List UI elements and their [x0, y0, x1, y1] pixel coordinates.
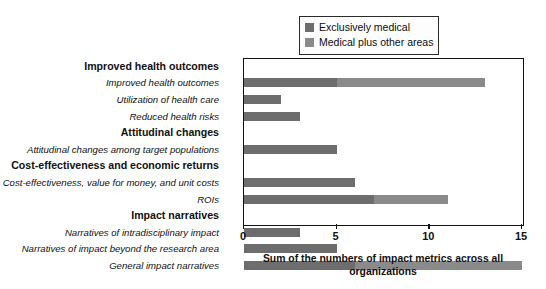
bar-track: [244, 174, 522, 191]
x-axis-tick: [243, 224, 244, 229]
row-label: Cost-effectiveness, value for money, and…: [0, 177, 219, 188]
category-header-label: Attitudinal changes: [0, 127, 219, 138]
bar-segment: [244, 195, 374, 204]
bar-track: [244, 91, 522, 108]
category-header-label: Cost-effectiveness and economic returns: [0, 160, 219, 171]
bar-segment: [244, 228, 300, 237]
chart-row: Narratives of intradisciplinary impact: [0, 224, 546, 241]
bar-segment: [337, 78, 485, 87]
bar: [244, 78, 485, 87]
bar-track: [244, 108, 522, 125]
row-label: General impact narratives: [0, 260, 219, 271]
row-label: ROIs: [0, 194, 219, 205]
bar-segment: [244, 145, 337, 154]
x-axis-tick: [336, 224, 337, 229]
row-label: Utilization of health care: [0, 94, 219, 105]
legend-swatch-icon: [305, 23, 314, 32]
row-label: Improved health outcomes: [0, 77, 219, 88]
chart-row: Improved health outcomes: [0, 75, 546, 92]
category-header-row: Cost-effectiveness and economic returns: [0, 158, 546, 175]
x-axis-tick: [428, 224, 429, 229]
bar-track: [244, 224, 522, 241]
legend-label: Exclusively medical: [319, 22, 410, 33]
bar-segment: [244, 95, 281, 104]
bar-track: [244, 207, 522, 224]
chart-row: Utilization of health care: [0, 91, 546, 108]
bar-segment: [244, 178, 355, 187]
bar: [244, 95, 281, 104]
bar-chart: Exclusively medical Medical plus other a…: [0, 0, 546, 289]
chart-row: ROIs: [0, 191, 546, 208]
row-label: Reduced health risks: [0, 111, 219, 122]
x-axis-tick-label: 15: [515, 230, 527, 242]
x-axis-tick: [521, 224, 522, 229]
bar: [244, 112, 300, 121]
bar-track: [244, 158, 522, 175]
bar-segment: [244, 78, 337, 87]
legend-swatch-icon: [305, 38, 314, 47]
bar-track: [244, 141, 522, 158]
chart-row: Cost-effectiveness, value for money, and…: [0, 174, 546, 191]
chart-row: Reduced health risks: [0, 108, 546, 125]
x-axis-tick-label: 5: [333, 230, 339, 242]
category-header-row: Improved health outcomes: [0, 58, 546, 75]
bar-segment: [244, 112, 300, 121]
x-axis: 051015: [243, 224, 522, 225]
bar: [244, 178, 355, 187]
legend-item-medical-plus-other-areas: Medical plus other areas: [305, 35, 433, 50]
chart-rows: Improved health outcomesImproved health …: [0, 58, 546, 224]
bar-track: [244, 75, 522, 92]
bar: [244, 145, 337, 154]
legend-item-exclusively-medical: Exclusively medical: [305, 20, 433, 35]
row-label: Attitudinal changes among target populat…: [0, 144, 219, 155]
bar-segment: [374, 195, 448, 204]
bar: [244, 195, 448, 204]
bar-track: [244, 191, 522, 208]
category-header-label: Impact narratives: [0, 210, 219, 221]
chart-row: Attitudinal changes among target populat…: [0, 141, 546, 158]
x-axis-title: Sum of the numbers of impact metrics acr…: [233, 252, 533, 278]
x-axis-tick-label: 10: [422, 230, 434, 242]
row-label: Narratives of intradisciplinary impact: [0, 227, 219, 238]
bar-track: [244, 58, 522, 75]
legend-label: Medical plus other areas: [319, 37, 433, 48]
category-header-row: Impact narratives: [0, 207, 546, 224]
category-header-label: Improved health outcomes: [0, 61, 219, 72]
bar: [244, 228, 300, 237]
bar-track: [244, 124, 522, 141]
category-header-row: Attitudinal changes: [0, 124, 546, 141]
x-axis-tick-label: 0: [240, 230, 246, 242]
row-label: Narratives of impact beyond the research…: [0, 243, 219, 254]
chart-legend: Exclusively medical Medical plus other a…: [299, 16, 439, 55]
